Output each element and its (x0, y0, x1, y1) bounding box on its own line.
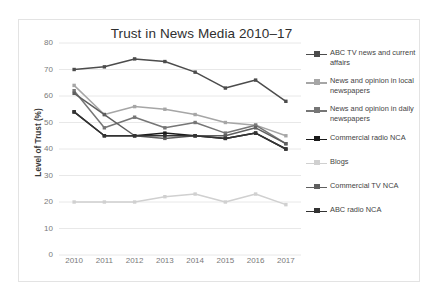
chart-container: Trust in News Media 2010–17 Level of Tru… (18, 19, 420, 282)
series-line (72, 110, 287, 151)
legend-item-label: Blogs (330, 157, 349, 167)
data-point-marker (133, 116, 136, 119)
data-point-marker (72, 84, 75, 87)
data-point-marker (224, 137, 227, 140)
legend-item-label: ABC TV news and current affairs (330, 48, 426, 67)
data-point-marker (254, 126, 257, 129)
data-point-marker (284, 100, 287, 103)
series-line (72, 110, 287, 151)
data-point-marker (254, 131, 257, 134)
data-point-marker (133, 200, 136, 203)
data-point-marker (224, 121, 227, 124)
legend-marker-icon (306, 105, 327, 116)
legend-item[interactable]: ABC TV news and current affairs (306, 48, 426, 67)
legend-item-label: ABC radio NCA (330, 205, 381, 215)
legend-item[interactable]: Commercial radio NCA (306, 133, 426, 148)
data-point-marker (224, 86, 227, 89)
legend-marker-icon (306, 49, 327, 60)
data-point-marker (72, 200, 75, 203)
data-point-marker (133, 134, 136, 137)
data-point-marker (133, 105, 136, 108)
data-point-marker (284, 203, 287, 206)
legend-marker-icon (306, 134, 327, 145)
data-point-marker (254, 78, 257, 81)
legend-marker-icon (306, 77, 327, 88)
data-point-marker (103, 134, 106, 137)
data-point-marker (163, 134, 166, 137)
data-point-marker (72, 110, 75, 113)
data-point-marker (193, 134, 196, 137)
legend-marker-icon (306, 182, 327, 193)
legend-item[interactable]: ABC radio NCA (306, 205, 426, 220)
data-point-marker (103, 65, 106, 68)
chart-legend: ABC TV news and current affairsNews and … (306, 48, 426, 229)
data-point-marker (224, 200, 227, 203)
data-point-marker (193, 70, 196, 73)
data-point-marker (193, 121, 196, 124)
data-point-marker (103, 200, 106, 203)
data-point-marker (284, 134, 287, 137)
data-point-marker (193, 113, 196, 116)
legend-item[interactable]: News and opinion in local newspapers (306, 76, 426, 95)
legend-item-label: Commercial TV NCA (330, 181, 398, 191)
data-point-marker (284, 147, 287, 150)
data-point-marker (103, 126, 106, 129)
data-point-marker (72, 68, 75, 71)
legend-item[interactable]: Commercial TV NCA (306, 181, 426, 196)
data-point-marker (284, 142, 287, 145)
data-point-marker (163, 108, 166, 111)
series-line (72, 192, 287, 206)
data-point-marker (163, 60, 166, 63)
data-point-marker (163, 195, 166, 198)
legend-item-label: Commercial radio NCA (330, 133, 406, 143)
data-point-marker (72, 92, 75, 95)
data-point-marker (193, 192, 196, 195)
legend-item-label: News and opinion in local newspapers (330, 76, 426, 95)
legend-item-label: News and opinion in daily newspapers (330, 104, 426, 123)
data-point-marker (163, 126, 166, 129)
data-point-marker (133, 57, 136, 60)
legend-marker-icon (306, 158, 327, 169)
legend-marker-icon (306, 206, 327, 217)
legend-item[interactable]: News and opinion in daily newspapers (306, 104, 426, 123)
data-point-marker (254, 192, 257, 195)
data-point-marker (103, 113, 106, 116)
legend-item[interactable]: Blogs (306, 157, 426, 172)
